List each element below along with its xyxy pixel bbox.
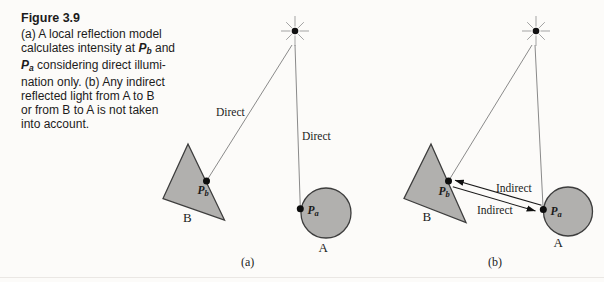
figure-3-9: Figure 3.9 (a) A local reflection model … — [0, 0, 604, 282]
object-b-triangle-b — [404, 144, 466, 223]
label-object-b-b: B — [423, 209, 432, 224]
subfigure-label-b: (b) — [488, 255, 502, 269]
object-b-triangle-a — [163, 144, 225, 220]
label-direct-lower-a: Direct — [302, 130, 332, 142]
diagram-b: Indirect Indirect Pb Pa B A (b) — [404, 16, 593, 269]
direct-ray-light-to-pa-a — [295, 45, 300, 208]
diagram-a: Direct Direct Pb Pa B A (a) — [163, 16, 351, 269]
label-indirect-upper-b: Indirect — [496, 182, 533, 194]
label-indirect-lower-b: Indirect — [477, 204, 514, 216]
light-source-b-icon — [522, 16, 550, 46]
label-object-a-a: A — [319, 240, 329, 255]
subfigure-label-a: (a) — [241, 255, 254, 269]
point-pa-dot-b — [540, 206, 547, 213]
light-source-a-icon — [281, 16, 309, 46]
diagrams-canvas: Direct Direct Pb Pa B A (a) Indirect Ind… — [0, 0, 604, 282]
direct-ray-light-to-pa-b — [535, 45, 543, 207]
point-pb-dot-b — [445, 178, 452, 185]
label-direct-upper-a: Direct — [216, 106, 246, 118]
point-pa-dot-a — [297, 205, 304, 212]
label-object-a-b: A — [554, 235, 564, 250]
label-object-b-a: B — [183, 210, 192, 225]
direct-ray-light-to-pb-b — [449, 45, 533, 181]
